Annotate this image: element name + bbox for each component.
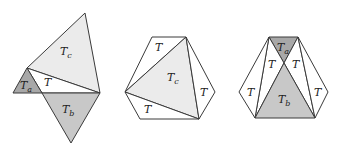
figure-left: TcTTaTb: [13, 13, 100, 143]
triangle-dissection-diagram: TcTTaTb TTcTT TaTTTbTT: [0, 0, 340, 152]
figure-right: TaTTTbTT: [239, 37, 328, 118]
triangle-tb: [42, 93, 100, 143]
figure-middle: TTcTT: [125, 37, 215, 119]
